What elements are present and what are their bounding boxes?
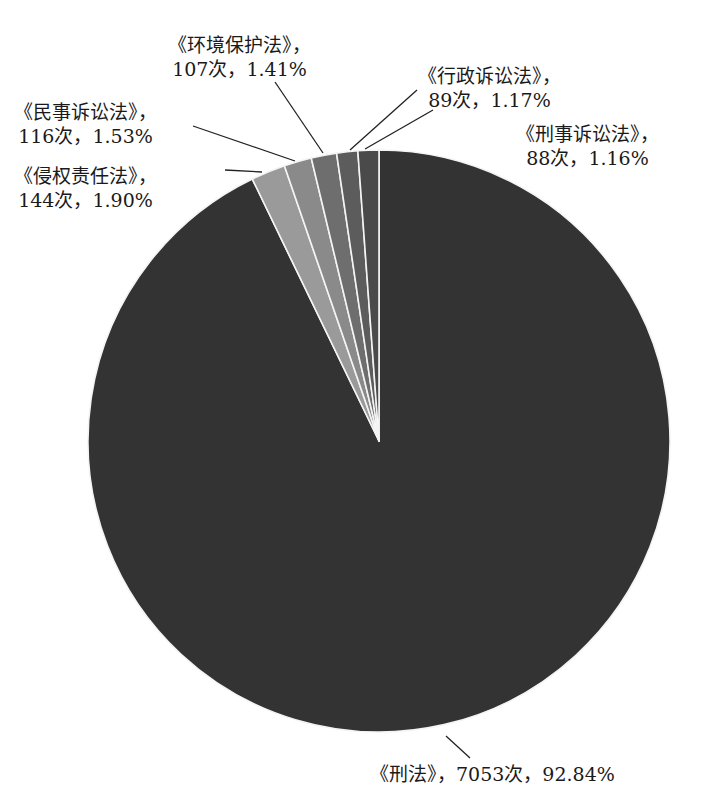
- leader-line: [365, 110, 433, 149]
- leader-line: [225, 170, 262, 172]
- leader-line: [446, 736, 470, 758]
- label-huanjing: 《环境保护法》， 107次，1.41%: [168, 33, 311, 81]
- label-minshi: 《民事诉讼法》， 116次，1.53%: [14, 100, 157, 148]
- leader-line: [193, 126, 295, 161]
- label-xingfa: 《刑法》，7053次，92.84%: [370, 762, 615, 786]
- label-qinquan: 《侵权责任法》， 144次，1.90%: [14, 164, 157, 212]
- label-xingzheng: 《行政诉讼法》， 89次，1.17%: [418, 64, 561, 112]
- leader-line: [275, 82, 323, 153]
- label-xingshi: 《刑事诉讼法》， 88次，1.16%: [516, 122, 659, 170]
- leader-line: [350, 90, 417, 150]
